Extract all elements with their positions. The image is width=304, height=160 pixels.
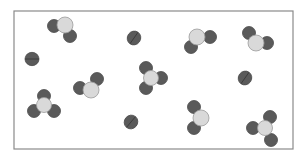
light-atom (258, 121, 273, 136)
light-atom (144, 71, 159, 86)
light-atom (83, 82, 99, 98)
diatomic-molecule (25, 52, 39, 65)
light-atom (57, 17, 73, 33)
dark-atom (204, 31, 217, 44)
light-atom (248, 35, 264, 51)
particle-diagram (0, 0, 304, 160)
light-atom (189, 29, 205, 45)
light-atom (37, 98, 52, 113)
light-atom (193, 110, 209, 126)
